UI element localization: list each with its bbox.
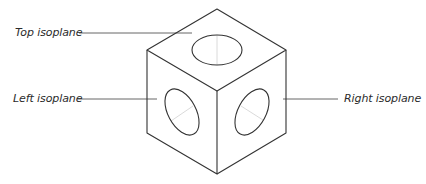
right-isoplane-circle — [228, 83, 276, 140]
right-isoplane-label: Right isoplane — [344, 92, 421, 105]
left-isoplane-label: Left isoplane — [13, 92, 82, 105]
leader-lines — [77, 33, 338, 99]
isoplane-diagram: Top isoplane Left isoplane Right isoplan… — [0, 0, 426, 184]
top-face — [147, 9, 286, 91]
right-face — [217, 50, 286, 174]
top-isoplane-label: Top isoplane — [15, 26, 82, 39]
left-isoplane-circle — [158, 83, 206, 140]
left-face — [147, 50, 217, 174]
